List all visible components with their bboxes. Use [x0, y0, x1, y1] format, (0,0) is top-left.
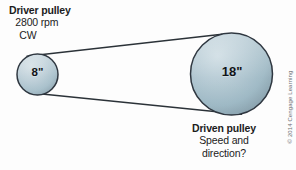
driver-pulley-direction: CW — [9, 29, 47, 41]
driven-pulley-question-line-1: Speed and — [192, 134, 256, 146]
driver-pulley-diameter-label: 8" — [17, 66, 58, 78]
driver-pulley-label-block: Driver pulley 2800 rpm CW — [9, 4, 71, 41]
driven-pulley-question-line-2: direction? — [192, 147, 256, 159]
copyright-notice: © 2014 Cengage Learning — [288, 71, 294, 144]
driven-pulley-diameter-label: 18" — [191, 64, 273, 79]
driven-pulley-title: Driven pulley — [192, 122, 256, 134]
driver-pulley-speed: 2800 rpm — [9, 16, 65, 28]
driven-pulley-label-block: Driven pulley Speed and direction? — [192, 122, 256, 159]
pulley-diagram-canvas: Driver pulley 2800 rpm CW Driven pulley … — [0, 0, 296, 170]
driver-pulley-title: Driver pulley — [9, 4, 71, 16]
